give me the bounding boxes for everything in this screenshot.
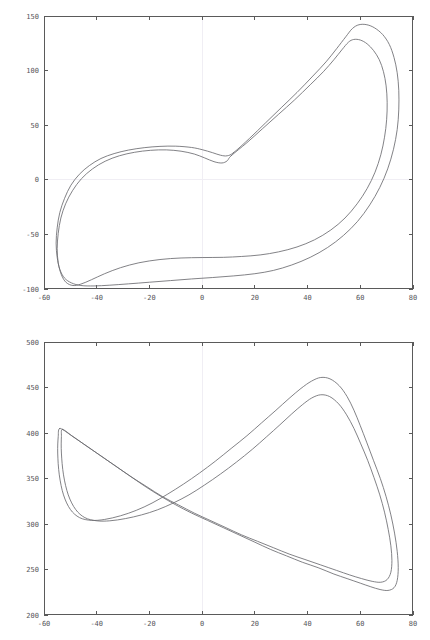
y-tick-label: 400 [26,430,39,438]
phase-portrait-bottom-svg: -60-40-20020406080200250300350400450500 [0,320,430,640]
x-tick-label: 20 [251,620,259,628]
x-tick-label: 60 [356,294,364,302]
x-tick-label: 0 [200,620,204,628]
x-tick-label: -60 [38,620,51,628]
y-tick-label: 150 [26,13,39,21]
curve-outer-orbit [56,24,399,286]
y-tick-label: 300 [26,521,39,529]
x-tick-label: 80 [409,294,417,302]
x-tick-label: 80 [409,620,417,628]
x-tick-label: -60 [38,294,51,302]
y-tick-label: 100 [26,67,39,75]
figure-container: -60-40-20020406080-100-50050100150 -60-4… [0,0,430,640]
x-tick-label: 60 [356,620,364,628]
y-tick-label: 0 [35,176,39,184]
y-tick-label: -100 [22,286,39,294]
x-tick-label: -20 [143,620,156,628]
chart-panel-bottom: -60-40-20020406080200250300350400450500 [0,320,430,640]
curve-outer-orbit [58,377,399,590]
y-tick-label: -50 [26,231,39,239]
y-tick-label: 250 [26,566,39,574]
y-tick-label: 200 [26,612,39,620]
x-tick-label: 40 [303,294,311,302]
y-tick-label: 450 [26,384,39,392]
y-tick-label: 350 [26,475,39,483]
y-tick-label: 500 [26,339,39,347]
y-tick-label: 50 [31,122,39,130]
x-tick-label: 40 [303,620,311,628]
x-tick-label: 0 [200,294,204,302]
chart-panel-top: -60-40-20020406080-100-50050100150 [0,0,430,320]
x-tick-label: -40 [90,620,103,628]
x-tick-label: -40 [90,294,103,302]
phase-portrait-top-svg: -60-40-20020406080-100-50050100150 [0,0,430,320]
curve-inner-orbit [61,395,392,583]
curve-inner-orbit [57,39,387,285]
x-tick-label: -20 [143,294,156,302]
x-tick-label: 20 [251,294,259,302]
